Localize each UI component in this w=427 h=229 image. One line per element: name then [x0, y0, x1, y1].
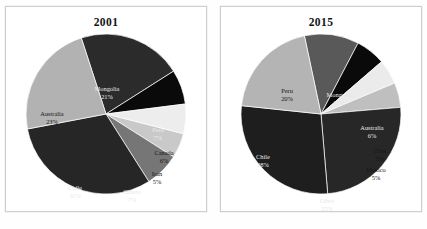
pie-svg [221, 31, 421, 199]
page-title-2015: 2015 [221, 16, 421, 29]
pie-slice-other [321, 107, 401, 193]
pie-panel-2015: 2015 Mongolia11%Australia6%USA5%Mexico5%… [220, 6, 422, 212]
pie-chart-figure: 2001 Mongolia21%Peru7%Canada6%Iran5%Othe… [0, 0, 427, 229]
pie-chart-2001: Mongolia21%Peru7%Canada6%Iran5%Others7%C… [6, 29, 206, 199]
page-title-2001: 2001 [6, 16, 206, 29]
pie-svg [6, 31, 206, 199]
slice-label-percent: 25% [305, 205, 349, 213]
pie-panel-2001: 2001 Mongolia21%Peru7%Canada6%Iran5%Othe… [5, 6, 207, 212]
slice-label-other: Other25% [305, 197, 349, 212]
pie-chart-2015: Mongolia11%Australia6%USA5%Mexico5%Other… [221, 29, 421, 199]
pie-slice-chile [241, 106, 328, 194]
